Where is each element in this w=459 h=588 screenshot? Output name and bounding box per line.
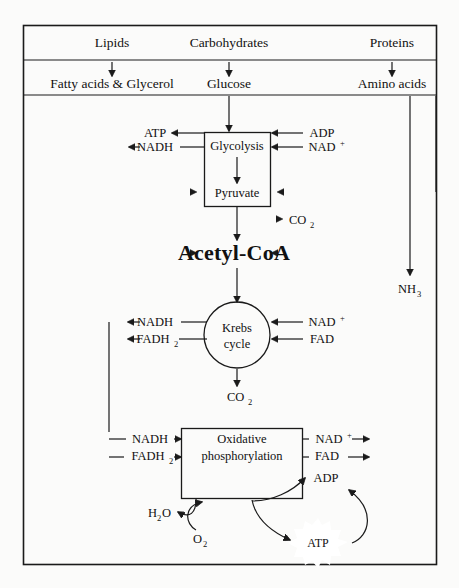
label-krebs-fadh2-subscript: 2 bbox=[174, 339, 178, 349]
label-oxygen-subscript: 2 bbox=[203, 539, 207, 549]
label-krebs-fad: FAD bbox=[310, 332, 334, 346]
label-glycolysis: Glycolysis bbox=[210, 139, 264, 153]
label-acetyl-coa: Acetyl-CoA bbox=[178, 240, 290, 265]
label-oxphos-nadh: NADH bbox=[132, 432, 168, 446]
label-glycolysis-adp: ADP bbox=[309, 126, 334, 140]
label-pyruvate: Pyruvate bbox=[215, 186, 260, 200]
krebs-cycle-circle[interactable] bbox=[204, 302, 270, 368]
label-oxphos-adp: ADP bbox=[313, 471, 338, 485]
metabolic-pathway-diagram: Lipids Carbohydrates Proteins Fatty acid… bbox=[0, 0, 459, 588]
label-glucose: Glucose bbox=[207, 76, 251, 91]
label-glycolysis-nadh: NADH bbox=[137, 140, 173, 154]
path-fattyacids-to-acetylcoa bbox=[68, 96, 196, 253]
label-krebs-line1: Krebs bbox=[222, 321, 252, 335]
label-carbohydrates: Carbohydrates bbox=[190, 35, 269, 50]
label-oxygen: O bbox=[193, 532, 202, 546]
label-pyruvate-co2: CO bbox=[289, 213, 306, 227]
label-oxphos-fad: FAD bbox=[315, 449, 339, 463]
label-oxphos-line2: phosphorylation bbox=[201, 449, 283, 463]
label-krebs-co2-subscript: 2 bbox=[248, 397, 252, 407]
outer-border bbox=[24, 26, 437, 565]
label-krebs-nadh: NADH bbox=[137, 315, 173, 329]
label-oxphos-nad-superscript: + bbox=[347, 430, 352, 440]
diagram-canvas: Lipids Carbohydrates Proteins Fatty acid… bbox=[0, 0, 459, 588]
label-ammonia-subscript: 3 bbox=[417, 289, 421, 299]
label-atp: ATP bbox=[307, 536, 329, 550]
label-proteins: Proteins bbox=[370, 35, 414, 50]
label-krebs-line2: cycle bbox=[224, 337, 251, 351]
label-glycolysis-atp: ATP bbox=[144, 126, 166, 140]
path-nad-rail-from-oxphos bbox=[302, 147, 369, 432]
label-oxphos-fadh2-subscript: 2 bbox=[169, 456, 173, 466]
label-krebs-nad: NAD bbox=[308, 315, 335, 329]
label-oxphos-line1: Oxidative bbox=[217, 432, 267, 446]
label-water-oxygen: O bbox=[162, 506, 171, 520]
label-glycolysis-nad-superscript: + bbox=[340, 138, 345, 148]
label-ammonia: NH bbox=[398, 282, 416, 296]
label-krebs-nad-superscript: + bbox=[340, 313, 345, 323]
label-lipids: Lipids bbox=[95, 35, 130, 50]
label-glycolysis-nad: NAD bbox=[308, 140, 335, 154]
path-nadh-to-oxphos-rail bbox=[109, 147, 181, 432]
label-pyruvate-co2-subscript: 2 bbox=[310, 220, 314, 230]
label-fatty-acids-glycerol: Fatty acids & Glycerol bbox=[50, 76, 174, 91]
curve-atp-to-adp bbox=[349, 490, 367, 543]
curve-oxphos-to-atp bbox=[252, 500, 290, 540]
label-oxphos-nad: NAD bbox=[315, 432, 342, 446]
label-water-subscript: 2 bbox=[157, 513, 161, 523]
label-oxphos-fadh2: FADH bbox=[131, 449, 164, 463]
label-amino-acids: Amino acids bbox=[358, 76, 427, 91]
curve-oxphos-to-water bbox=[178, 499, 196, 515]
label-water: H bbox=[148, 506, 157, 520]
curve-adp-to-oxphos bbox=[252, 478, 305, 501]
label-krebs-fadh2: FADH bbox=[136, 332, 169, 346]
label-krebs-co2: CO bbox=[227, 390, 244, 404]
